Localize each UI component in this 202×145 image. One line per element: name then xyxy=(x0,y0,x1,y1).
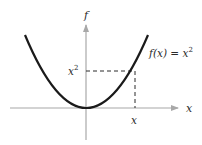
function-label: f(x) = x2 xyxy=(148,46,193,59)
parabola-figure: f x f(x) = x2 x2 x xyxy=(0,0,202,145)
x-tick-label: x xyxy=(131,114,137,126)
x-axis-label: x xyxy=(186,102,193,115)
f-axis-label: f xyxy=(83,9,90,22)
x-squared-exponent: 2 xyxy=(74,64,78,72)
function-label-base: f(x) = x xyxy=(148,47,188,59)
function-label-exponent: 2 xyxy=(188,46,192,54)
chart-canvas: f x f(x) = x2 x2 x xyxy=(0,0,202,145)
x-squared-label: x2 xyxy=(68,64,78,77)
